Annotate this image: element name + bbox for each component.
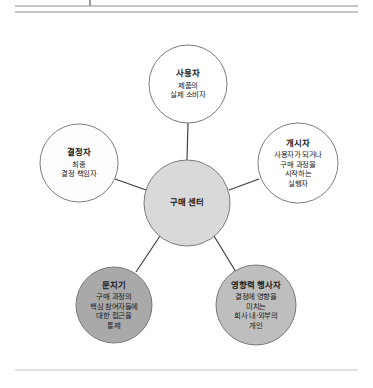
spoke-to-user [187, 123, 188, 160]
spoke-to-decider [115, 179, 146, 190]
node-circle-user[interactable] [149, 45, 227, 123]
spoke-to-initiator [229, 179, 259, 190]
node-circle-gatekeeper[interactable] [76, 267, 152, 343]
node-circle-initiator[interactable] [258, 123, 338, 203]
node-circle-buying-center[interactable] [144, 160, 230, 246]
diagram-canvas [0, 0, 373, 388]
spoke-to-influencer [214, 236, 236, 272]
spoke-to-gatekeeper [136, 236, 160, 272]
node-circle-decider[interactable] [40, 124, 118, 202]
node-circle-influencer[interactable] [216, 265, 296, 345]
buying-center-diagram: 구매 센터 사용자 제품의 실제 소비자 결정자 최종 결정 책임자 개시자 사… [0, 0, 373, 388]
